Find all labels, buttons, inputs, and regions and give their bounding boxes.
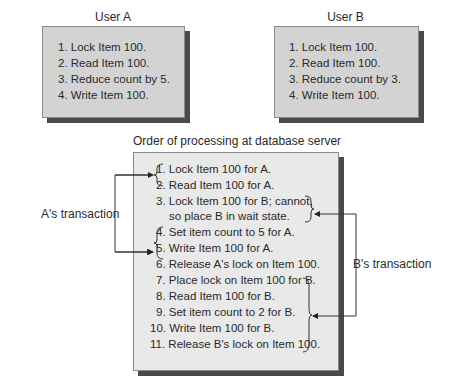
a-transaction-bracket	[115, 175, 152, 252]
brace-b-1	[305, 196, 314, 222]
brace-b-2	[303, 278, 312, 352]
brace-a-2	[154, 227, 163, 259]
connector-overlay	[0, 0, 451, 389]
brace-a-1	[154, 164, 163, 186]
